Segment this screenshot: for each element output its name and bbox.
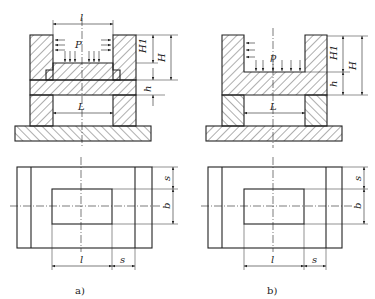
diagram-canvas: l P H1 H h L p H1 H h L	[0, 0, 375, 299]
label-L: L	[77, 101, 85, 112]
inner-rect	[52, 189, 112, 224]
label-s-vertical: s	[161, 176, 172, 181]
base-plate	[15, 126, 151, 141]
label-pressure: P	[74, 39, 82, 50]
label-H: H	[156, 53, 167, 63]
middle-plate	[30, 80, 136, 95]
label-l-top: l	[80, 12, 83, 23]
inner-rect	[244, 189, 304, 224]
lower-right-wall	[305, 95, 327, 126]
base-plate	[206, 126, 342, 141]
upper-block	[222, 35, 327, 95]
label-L: L	[269, 101, 277, 112]
label-H1: H1	[137, 38, 148, 54]
panel-a-section	[15, 18, 178, 148]
label-h: h	[142, 86, 153, 92]
label-b: b	[352, 203, 363, 209]
panel-a-plan	[10, 157, 178, 270]
lower-left-wall	[222, 95, 244, 126]
punch-plate	[46, 63, 120, 80]
label-s: s	[120, 254, 125, 265]
label-s: s	[312, 254, 317, 265]
lower-right-wall	[113, 95, 136, 126]
lower-left-wall	[30, 95, 53, 126]
label-s-vertical: s	[352, 176, 363, 181]
caption-a: a)	[75, 285, 85, 296]
label-H: H	[347, 61, 358, 71]
label-l: l	[80, 254, 83, 265]
panel-b-plan	[201, 157, 368, 270]
outer-rect	[208, 167, 342, 248]
outer-rect	[17, 167, 152, 248]
caption-b: b)	[267, 285, 277, 296]
panel-b-section	[206, 28, 368, 148]
label-b: b	[161, 203, 172, 209]
label-H1: H1	[328, 45, 339, 61]
label-l: l	[271, 254, 274, 265]
label-h: h	[328, 81, 339, 87]
label-pressure: p	[270, 51, 277, 62]
